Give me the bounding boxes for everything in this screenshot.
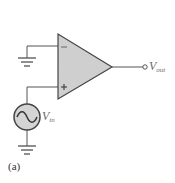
inverting-input-wire — [27, 46, 58, 58]
opamp-triangle — [58, 34, 112, 99]
ac-source-icon — [14, 104, 40, 130]
ground-icon — [18, 58, 36, 66]
ground-icon — [18, 146, 36, 154]
circuit-diagram — [0, 0, 175, 183]
output-terminal — [143, 65, 147, 69]
figure-caption: (a) — [8, 160, 20, 172]
vout-label: Vout — [149, 59, 165, 74]
vin-label: Vin — [42, 109, 55, 124]
